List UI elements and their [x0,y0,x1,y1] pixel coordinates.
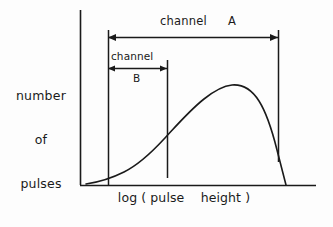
channel-b-label-letter: B [133,72,140,84]
spectrum-curve [86,85,286,185]
x-axis-label: log ( pulse height ) [84,191,284,206]
y-axis-label-line-2: of [4,133,78,148]
channel-b-arrow [108,66,167,72]
channel-a-label-word: channel [160,15,207,29]
y-axis-label-line-1: number [4,89,78,104]
figure-root: number of pulses log ( pulse height ) ch… [0,0,333,227]
y-axis-label-line-3: pulses [4,177,78,192]
channel-a-arrow [108,34,278,41]
channel-b-label-word: channel [111,50,153,62]
channel-a-label-letter: A [228,15,236,29]
y-axis-label: number of pulses [4,59,78,221]
